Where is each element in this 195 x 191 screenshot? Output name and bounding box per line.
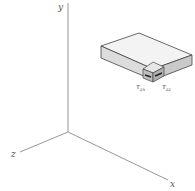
axes <box>20 3 168 180</box>
x-axis <box>68 132 168 180</box>
label-tau-zx: τzx <box>136 83 146 92</box>
diagram-canvas: y z x τzx τzz <box>0 0 195 191</box>
z-axis-label: z <box>10 149 16 159</box>
z-axis <box>20 132 68 152</box>
y-axis-label: y <box>57 2 64 12</box>
x-axis-label: x <box>170 179 175 189</box>
label-tau-zz: τzz <box>162 83 172 92</box>
